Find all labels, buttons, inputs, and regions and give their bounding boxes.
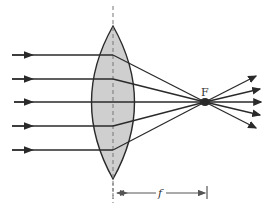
lens-diagram: F f xyxy=(0,0,270,208)
focal-point-dot xyxy=(200,98,210,106)
refracted-rays xyxy=(113,55,261,150)
focal-length-label: f xyxy=(157,187,164,200)
focal-point-label: F xyxy=(201,86,209,99)
